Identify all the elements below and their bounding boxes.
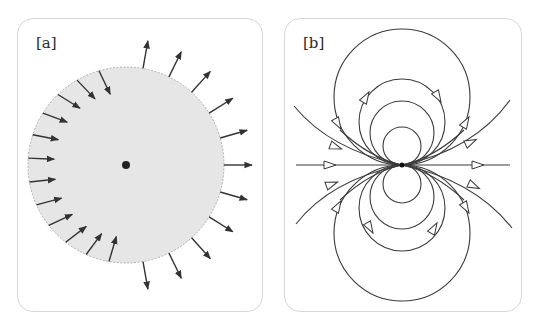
field-loop <box>334 165 470 301</box>
outward-arrow <box>220 130 247 138</box>
field-loop <box>383 165 421 203</box>
outward-arrow <box>169 52 181 77</box>
arrowhead-icon <box>460 115 473 129</box>
outward-arrow <box>192 238 211 259</box>
arrowhead-icon <box>364 221 377 235</box>
field-loop <box>383 127 421 165</box>
arrowhead-icon <box>329 141 343 153</box>
outward-arrow <box>209 217 233 232</box>
arrowhead-icon <box>472 161 484 169</box>
panel-a-figure <box>28 41 252 289</box>
point-charge-dot <box>122 161 130 169</box>
arrowhead-icon <box>428 221 441 235</box>
outward-arrow <box>143 262 148 290</box>
outward-arrow <box>143 41 148 69</box>
outward-arrow <box>169 253 181 278</box>
outward-arrow <box>220 192 247 200</box>
arrowhead-icon <box>325 178 339 190</box>
outward-arrow <box>192 71 211 92</box>
outward-arrow <box>209 98 233 113</box>
dipole-center-dot <box>400 163 405 168</box>
arrowhead-icon <box>324 161 336 169</box>
field-loop <box>370 101 434 165</box>
hollow-arrowheads <box>324 90 484 235</box>
arrowhead-icon <box>460 201 473 215</box>
field-loop <box>334 29 470 165</box>
figure-canvas <box>0 0 533 322</box>
field-loop <box>370 165 434 229</box>
